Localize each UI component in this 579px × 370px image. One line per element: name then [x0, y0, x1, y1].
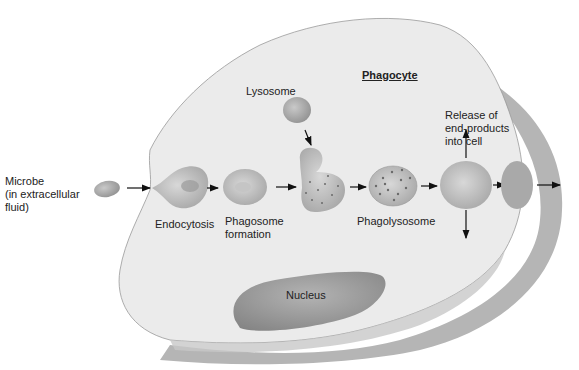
endocytosis-label: Endocytosis	[155, 218, 214, 231]
cell-title: Phagocyte	[362, 69, 418, 82]
phagolysosome-label: Phagolysosome	[357, 215, 435, 228]
exocytosis-vesicle	[501, 161, 533, 209]
microbe-icon	[93, 179, 121, 199]
release-label: Release of end-products into cell	[445, 109, 509, 148]
lysosome-icon	[283, 97, 311, 123]
phagocytosis-diagram: Phagocyte Microbe (in extracellular flui…	[0, 0, 579, 370]
residual-body-icon	[440, 161, 492, 209]
microbe-label: Microbe (in extracellular fluid)	[5, 175, 80, 214]
lysosome-label: Lysosome	[246, 85, 296, 98]
diagram-canvas	[0, 0, 579, 370]
nucleus-label: Nucleus	[286, 289, 326, 302]
phagosome-label: Phagosome formation	[225, 215, 284, 241]
